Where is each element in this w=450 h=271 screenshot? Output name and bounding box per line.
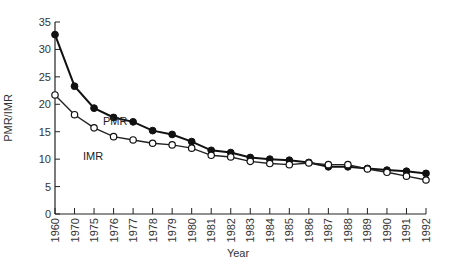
y-tick-label: 30 [39,43,51,55]
pmr-data-point [169,131,176,138]
series-pmr [52,31,430,177]
line-chart: 05101520253035 1960197019751976197719781… [0,0,450,271]
y-tick-label: 5 [45,181,51,193]
x-tick-label: 1987 [322,218,334,242]
y-tick-label: 20 [39,98,51,110]
x-tick-label: 1983 [244,218,256,242]
imr-data-point [208,152,214,158]
x-tick-label: 1980 [186,218,198,242]
pmr-data-point [91,105,98,112]
x-axis-title: Year [227,247,250,259]
imr-data-point [149,140,155,146]
x-tick-label: 1984 [264,218,276,242]
x-tick-label: 1988 [342,218,354,242]
series-imr [52,92,429,183]
chart-canvas: 05101520253035 1960197019751976197719781… [0,0,450,271]
x-tick-label: 1975 [88,218,100,242]
pmr-data-point [130,118,137,125]
pmr-data-point [423,170,430,177]
imr-data-point [169,142,175,148]
x-tick-label: 1992 [420,218,432,242]
imr-series-label: IMR [83,150,103,162]
imr-data-point [384,169,390,175]
pmr-data-point [149,127,156,134]
imr-data-point [188,145,194,151]
x-tick-label: 1990 [381,218,393,242]
imr-data-point [325,161,331,167]
pmr-series-label: PMR [103,115,128,127]
imr-data-point [345,161,351,167]
imr-data-point [364,166,370,172]
imr-data-point [91,125,97,131]
y-tick-label: 15 [39,126,51,138]
x-tick-label: 1978 [147,218,159,242]
pmr-data-point [52,31,59,38]
imr-data-point [267,160,273,166]
y-axis: 05101520253035 [39,16,60,220]
x-axis: 1960197019751976197719781979198019811982… [49,208,432,242]
imr-data-point [423,177,429,183]
pmr-data-point [188,138,195,145]
x-tick-label: 1986 [303,218,315,242]
y-axis-title: PMR/IMR [2,94,14,142]
imr-data-point [71,112,77,118]
x-tick-label: 1981 [205,218,217,242]
x-tick-label: 1991 [400,218,412,242]
x-tick-label: 1976 [108,218,120,242]
x-tick-label: 1970 [69,218,81,242]
imr-data-point [286,161,292,167]
y-tick-label: 10 [39,153,51,165]
y-tick-label: 35 [39,16,51,28]
imr-data-point [247,158,253,164]
imr-data-point [130,137,136,143]
imr-data-point [403,173,409,179]
x-tick-label: 1960 [49,218,61,242]
x-tick-label: 1989 [361,218,373,242]
imr-data-point [306,160,312,166]
x-tick-label: 1985 [283,218,295,242]
imr-data-point [110,133,116,139]
x-tick-label: 1982 [225,218,237,242]
x-tick-label: 1977 [127,218,139,242]
y-tick-label: 25 [39,71,51,83]
imr-data-point [228,154,234,160]
series-layer [52,31,430,183]
pmr-data-point [71,83,78,90]
imr-data-point [52,92,58,98]
x-tick-label: 1979 [166,218,178,242]
